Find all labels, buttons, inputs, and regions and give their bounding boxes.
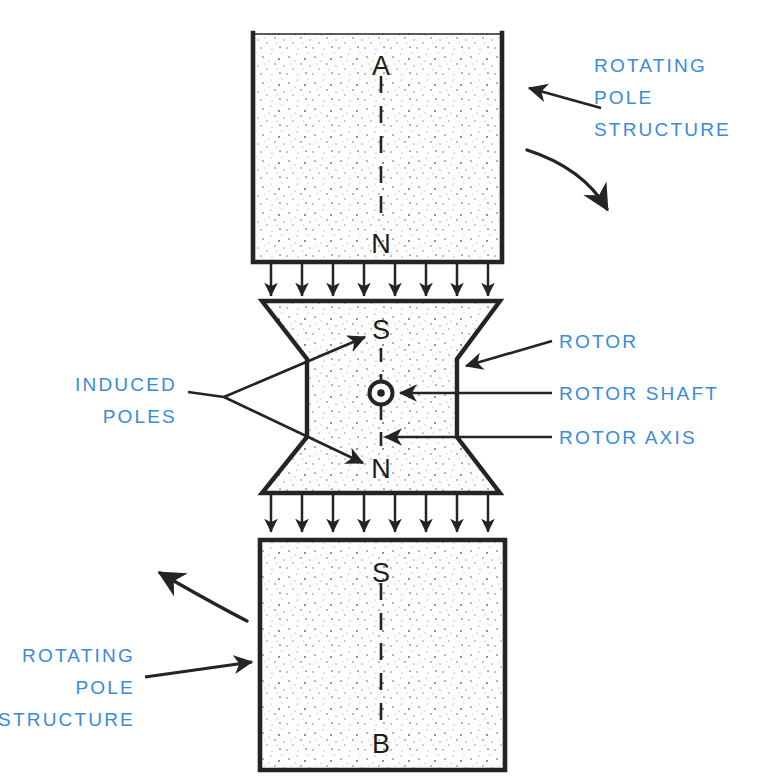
label-rotating-bottom-line3: STRUCTURE (0, 709, 135, 730)
label-rotor-shaft: ROTOR SHAFT (559, 383, 719, 404)
rotation-arrow-clockwise-icon (527, 150, 607, 209)
label-rotating-top-line1: ROTATING (594, 55, 707, 76)
rotating-pole-structure-leader-top (529, 88, 601, 108)
label-pole-N-upper: N (371, 229, 391, 259)
rotor-shaft-icon (370, 382, 393, 405)
top-right-callout: ROTATING POLE STRUCTURE (529, 55, 731, 140)
label-rotating-top-line3: STRUCTURE (594, 119, 731, 140)
upper-flux-arrows (271, 263, 488, 296)
label-pole-B: B (372, 729, 390, 759)
label-induced-line1: INDUCED (75, 374, 177, 395)
label-rotating-top-line2: POLE (594, 87, 654, 108)
label-induced-pole-N: N (371, 454, 391, 484)
induced-poles-leader-stem (188, 392, 224, 397)
diagram-canvas: A N S N (0, 0, 769, 778)
lower-flux-arrows (271, 495, 488, 532)
shaft-dot (377, 389, 385, 397)
label-rotating-bottom-line1: ROTATING (22, 645, 135, 666)
label-rotor: ROTOR (559, 331, 638, 352)
rotor-leader (466, 341, 552, 366)
label-pole-A: A (372, 51, 390, 81)
label-rotor-axis: ROTOR AXIS (559, 427, 697, 448)
bottom-left-callout: ROTATING POLE STRUCTURE (0, 645, 252, 730)
rotor-callout: ROTOR (466, 331, 638, 366)
label-induced-pole-S: S (372, 315, 390, 345)
label-rotating-bottom-line2: POLE (76, 677, 136, 698)
rotation-arrow-counterclockwise-icon (160, 573, 247, 621)
label-induced-line2: POLES (103, 406, 177, 427)
rotating-pole-structure-leader-bottom (145, 662, 252, 677)
label-pole-S-lower: S (372, 558, 390, 588)
